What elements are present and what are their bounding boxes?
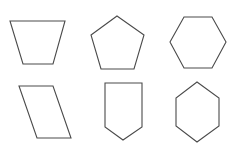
- hexagon-flat-shape: [170, 17, 226, 68]
- pentagon-shape: [91, 16, 144, 69]
- shield-pentagon-shape: [105, 83, 142, 140]
- trapezoid-shape: [10, 21, 65, 64]
- parallelogram-shape: [19, 86, 71, 138]
- shapes-canvas: [0, 0, 238, 148]
- hexagon-pointy-shape: [176, 82, 219, 142]
